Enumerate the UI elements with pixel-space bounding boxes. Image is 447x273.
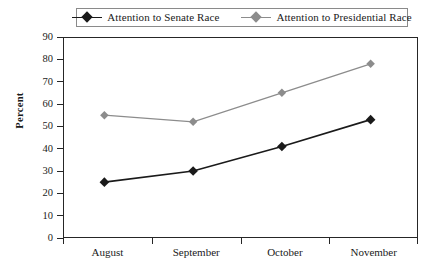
- y-tick-label: 60: [18, 97, 53, 110]
- x-tick-mark-1: [152, 238, 153, 244]
- x-axis-label-november: November: [329, 245, 418, 259]
- y-tick-label: 30: [18, 164, 53, 177]
- y-tick-label: 0: [18, 231, 53, 244]
- y-tick-label: 20: [18, 186, 53, 199]
- legend-label-senate: Attention to Senate Race: [107, 12, 219, 23]
- y-tick-label: 70: [18, 75, 53, 88]
- y-tick-label: 50: [18, 119, 53, 132]
- x-tick-mark-3: [329, 238, 330, 244]
- y-tick-label: 80: [18, 52, 53, 65]
- y-tick-label: 40: [18, 142, 53, 155]
- x-tick-mark-2: [241, 238, 242, 244]
- x-axis-label-september: September: [152, 245, 241, 259]
- x-tick-mark-0: [63, 238, 64, 244]
- y-tick-label: 90: [18, 30, 53, 43]
- legend-swatch-presidential: [241, 12, 271, 23]
- figure-caption: [0, 264, 447, 273]
- legend-entry-presidential: Attention to Presidential Race: [241, 12, 411, 23]
- x-tick-mark-4: [417, 238, 418, 244]
- legend-swatch-senate: [72, 12, 102, 23]
- y-tick-label: 10: [18, 209, 53, 222]
- x-axis-label-august: August: [63, 245, 152, 259]
- plot-area: [63, 37, 418, 238]
- legend-label-presidential: Attention to Presidential Race: [276, 12, 411, 23]
- attention-line-chart: Attention to Senate Race Attention to Pr…: [0, 0, 447, 273]
- legend-diamond-icon-senate: [82, 11, 93, 22]
- legend-diamond-icon-presidential: [251, 11, 262, 22]
- x-axis-label-october: October: [241, 245, 330, 259]
- chart-legend: Attention to Senate Race Attention to Pr…: [76, 8, 408, 27]
- legend-entry-senate: Attention to Senate Race: [72, 12, 219, 23]
